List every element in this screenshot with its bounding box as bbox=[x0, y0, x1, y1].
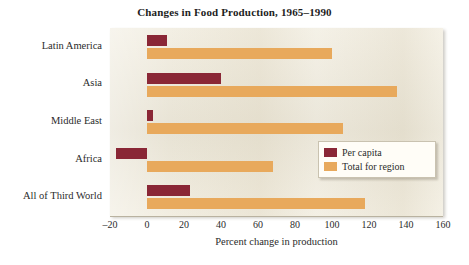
category-row bbox=[110, 103, 443, 141]
chart-figure: Changes in Food Production, 1965–1990 La… bbox=[0, 0, 469, 265]
x-axis-tick: 160 bbox=[423, 219, 463, 230]
bar-per-capita bbox=[147, 73, 221, 84]
x-axis-tick: –20 bbox=[90, 219, 130, 230]
bar-total-for-region bbox=[147, 198, 365, 209]
y-axis-label: Africa bbox=[0, 153, 102, 164]
legend-item: Total for region bbox=[324, 159, 431, 173]
y-axis-label: Asia bbox=[0, 77, 102, 88]
legend-label: Per capita bbox=[342, 147, 382, 158]
bar-total-for-region bbox=[147, 161, 273, 172]
x-axis-tick: 40 bbox=[201, 219, 241, 230]
x-axis-tick: 120 bbox=[349, 219, 389, 230]
category-row bbox=[110, 28, 443, 66]
x-axis-tick: 80 bbox=[275, 219, 315, 230]
bar-per-capita bbox=[116, 148, 147, 159]
bar-per-capita bbox=[147, 110, 153, 121]
legend-swatch-per-capita-icon bbox=[324, 148, 337, 157]
x-axis-line bbox=[110, 216, 443, 217]
y-axis-category-labels: Latin AmericaAsiaMiddle EastAfricaAll of… bbox=[0, 28, 106, 216]
legend-swatch-total-icon bbox=[324, 162, 337, 171]
chart-title: Changes in Food Production, 1965–1990 bbox=[0, 6, 469, 18]
plot-area bbox=[110, 28, 443, 216]
x-axis-tick: 20 bbox=[164, 219, 204, 230]
legend-item: Per capita bbox=[324, 145, 431, 159]
category-row bbox=[110, 66, 443, 104]
x-axis-title: Percent change in production bbox=[110, 236, 443, 247]
x-axis-tick: 0 bbox=[127, 219, 167, 230]
bar-total-for-region bbox=[147, 48, 332, 59]
y-axis-label: Middle East bbox=[0, 115, 102, 126]
bar-total-for-region bbox=[147, 86, 397, 97]
y-axis-label: Latin America bbox=[0, 40, 102, 51]
bar-per-capita bbox=[147, 185, 190, 196]
x-axis-tick: 60 bbox=[238, 219, 278, 230]
category-row bbox=[110, 178, 443, 216]
x-axis-tick: 100 bbox=[312, 219, 352, 230]
y-axis-label: All of Third World bbox=[0, 190, 102, 201]
x-axis-tick: 140 bbox=[386, 219, 426, 230]
legend-label: Total for region bbox=[342, 161, 405, 172]
x-axis-tick-labels: –20020406080100120140160 bbox=[0, 219, 469, 233]
bar-per-capita bbox=[147, 35, 167, 46]
bar-total-for-region bbox=[147, 123, 343, 134]
chart-legend: Per capitaTotal for region bbox=[318, 141, 436, 178]
